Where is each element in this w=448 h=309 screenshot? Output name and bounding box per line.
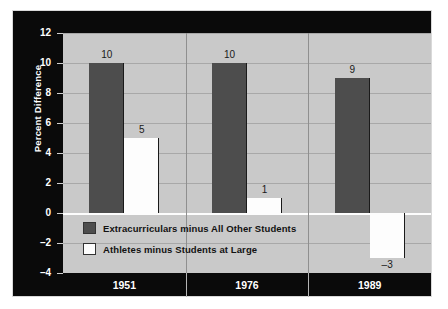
x-tick-label-1976: 1976 <box>197 279 297 291</box>
category-separator <box>308 33 309 273</box>
bar-1989-series2 <box>370 213 405 258</box>
y-tick-label: –2 <box>25 237 51 248</box>
bar-value-1951-series1: 10 <box>87 49 127 60</box>
x-tick-label-1989: 1989 <box>320 279 420 291</box>
y-tick-label: 10 <box>25 57 51 68</box>
bar-value-1989-series1: 9 <box>332 64 372 75</box>
y-tick-label: 6 <box>25 117 51 128</box>
bar-1976-series2 <box>247 198 282 213</box>
chart-panel: Percent Difference 121086420–2–4 1051019… <box>12 10 432 297</box>
bar-value-1951-series2: 5 <box>122 124 162 135</box>
bar-1976-series1 <box>212 63 247 213</box>
x-axis: 195119761989 <box>63 273 431 297</box>
legend-item-athletes: Athletes minus Students at Large <box>83 240 296 258</box>
bar-1951-series1 <box>89 63 124 213</box>
y-tick-label: 0 <box>25 207 51 218</box>
y-tick-label: 4 <box>25 147 51 158</box>
bar-1951-series2 <box>124 138 159 213</box>
legend-label-athletes: Athletes minus Students at Large <box>103 244 257 255</box>
gridline <box>63 33 431 34</box>
bar-1989-series1 <box>335 78 370 213</box>
bar-value-1989-series2: –3 <box>367 259 407 270</box>
plot-area: 1051019–3 Extracurriculars minus All Oth… <box>63 33 431 273</box>
x-axis-separator <box>186 273 187 297</box>
y-tick-label: 2 <box>25 177 51 188</box>
bar-value-1976-series1: 10 <box>210 49 250 60</box>
legend-swatch-dark <box>83 222 96 234</box>
y-tick-label: –4 <box>25 267 51 278</box>
legend-item-extracurriculars: Extracurriculars minus All Other Student… <box>83 219 296 237</box>
chart-legend: Extracurriculars minus All Other Student… <box>83 219 296 261</box>
y-tick-label: 12 <box>25 27 51 38</box>
legend-label-extracurriculars: Extracurriculars minus All Other Student… <box>103 223 296 234</box>
x-tick-label-1951: 1951 <box>74 279 174 291</box>
y-tick-label: 8 <box>25 87 51 98</box>
chart-figure: Percent Difference 121086420–2–4 1051019… <box>0 0 448 309</box>
legend-swatch-light <box>83 243 96 255</box>
bar-value-1976-series2: 1 <box>245 184 285 195</box>
x-axis-separator <box>308 273 309 297</box>
